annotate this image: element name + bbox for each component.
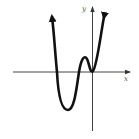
y-axis-label: y [82,6,86,13]
polynomial-curve [52,17,104,110]
polynomial-graph [0,0,139,139]
x-axis-label: x [124,76,128,83]
